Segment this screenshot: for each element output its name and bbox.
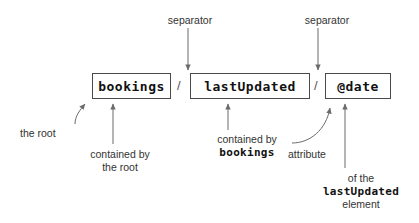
annotation-line: of the (305, 172, 417, 185)
annotation-line: separator (292, 14, 362, 27)
annotation-line: the root (20, 127, 80, 140)
annotation-line: separator (155, 14, 225, 27)
annotation-line: bookings (192, 146, 302, 159)
annotation-line: contained by (192, 133, 302, 146)
annotation-separator-right: separator (292, 14, 362, 27)
annotation-the-root: the root (20, 127, 80, 140)
annotation-line: contained by (78, 148, 162, 161)
annotation-line: element (305, 198, 417, 211)
node-box-date[interactable]: @date (325, 73, 391, 99)
node-label-lastupdated: lastUpdated (204, 79, 296, 94)
annotation-attribute: attribute (288, 148, 346, 161)
node-box-lastupdated[interactable]: lastUpdated (190, 73, 310, 99)
node-label-date: @date (337, 79, 379, 94)
annotation-contained-by-bookings: contained bybookings (192, 133, 302, 159)
node-label-bookings: bookings (98, 79, 165, 94)
separator-slash-1: / (177, 79, 181, 92)
node-box-bookings[interactable]: bookings (92, 73, 171, 99)
annotation-of-the-lastupdated-element: of thelastUpdatedelement (305, 172, 417, 211)
annotation-line: the root (78, 161, 162, 174)
separator-slash-2: / (314, 79, 318, 92)
annotation-line: lastUpdated (305, 185, 417, 198)
annotation-line: attribute (288, 148, 346, 161)
annotation-separator-left: separator (155, 14, 225, 27)
annotation-contained-by-the-root: contained bythe root (78, 148, 162, 174)
arrow-the-root (75, 104, 85, 124)
diagram-canvas: bookings lastUpdated @date / / separator… (0, 0, 419, 223)
